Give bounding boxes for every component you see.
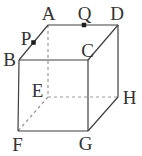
edge-EF-hidden (18, 97, 48, 131)
edge-GH (88, 97, 118, 131)
vertex-label-C: C (81, 40, 94, 61)
vertex-label-D: D (110, 3, 124, 24)
vertex-label-H: H (123, 87, 137, 108)
vertex-label-F: F (12, 134, 23, 155)
vertex-label-A: A (42, 3, 56, 24)
vertex-label-E: E (32, 80, 44, 101)
vertex-label-Q: Q (78, 3, 92, 24)
point-marker-P (31, 40, 36, 45)
vertex-label-B: B (3, 49, 16, 70)
edge-BF (18, 60, 19, 131)
cube-figure: AQDPBCEHFG (0, 0, 142, 156)
vertex-label-G: G (79, 133, 93, 154)
cube-diagram: AQDPBCEHFG (0, 0, 142, 156)
vertex-label-P: P (21, 28, 32, 49)
